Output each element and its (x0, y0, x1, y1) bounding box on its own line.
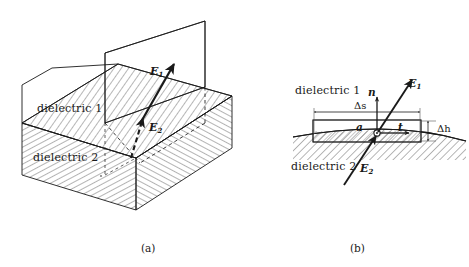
boundary-point-a-center (376, 132, 378, 134)
panel-b-delta-h-text: Δh (437, 123, 451, 134)
panel-a-label-dielectric-2: dielectric 2 (33, 152, 99, 163)
panel-a-label-E1: E1 (150, 66, 163, 77)
figure-vector-layer (0, 0, 469, 267)
panel-b-label-E2: E2 (360, 163, 373, 174)
panel-b-label-dielectric-2: dielectric 2 (291, 161, 357, 172)
panel-a-E1-subscript: 1 (158, 70, 163, 79)
panel-b-label-tangent-vector: t (398, 122, 403, 133)
panel-b-E2-subscript: 2 (368, 167, 373, 176)
panel-a-label-dielectric-1: dielectric 1 (37, 103, 103, 114)
panel-b-label-normal-vector: n (368, 87, 376, 98)
field-vector-E1-panel-b (378, 80, 412, 132)
panel-b-label-delta-h: Δh (437, 124, 451, 134)
panel-b-E1-subscript: 1 (416, 82, 421, 91)
panel-b-delta-s-text: Δs (354, 100, 366, 111)
panel-a-graphics (22, 21, 232, 210)
panel-b-label-delta-s: Δs (354, 101, 366, 111)
panel-b-label-point-a: a (356, 122, 363, 133)
panel-b-caption: (b) (350, 243, 365, 254)
figure-container: dielectric 1 dielectric 2 E1 E2 (a) diel… (0, 0, 469, 267)
panel-a-label-E2: E2 (149, 122, 162, 133)
panel-a-E2-subscript: 2 (157, 126, 162, 135)
interface-point-panel-a (100, 175, 102, 177)
panel-a-caption: (a) (141, 243, 155, 254)
panel-b-label-dielectric-1: dielectric 1 (295, 85, 361, 96)
panel-b-label-E1: E1 (408, 78, 421, 89)
